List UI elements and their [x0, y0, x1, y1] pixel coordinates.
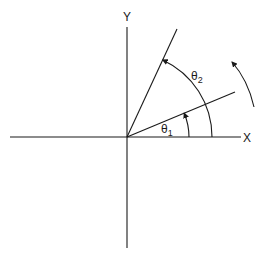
theta1-label: θ1 [161, 122, 173, 138]
theta2-label: θ2 [191, 69, 203, 85]
ray-theta1 [127, 92, 235, 137]
arc-theta1 [184, 113, 189, 137]
x-axis-label: X [243, 131, 251, 145]
ray-theta2 [127, 29, 177, 137]
rotation-arrow-icon [232, 62, 254, 107]
angle-diagram: Y X θ1 θ2 [0, 0, 265, 256]
y-axis-label: Y [123, 10, 131, 24]
